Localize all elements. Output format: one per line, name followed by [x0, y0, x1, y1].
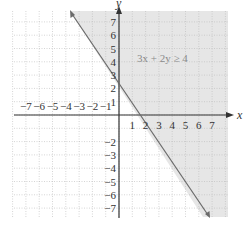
x-tick-label: −7	[20, 100, 32, 112]
x-tick-label: −6	[33, 100, 45, 112]
x-axis-arrow-icon	[226, 112, 234, 118]
y-tick-label: −5	[104, 176, 116, 188]
x-tick-label: 4	[169, 119, 175, 131]
y-tick-label: 1	[111, 96, 117, 108]
y-tick-label: 3	[111, 69, 117, 81]
x-tick-label: 1	[130, 119, 136, 131]
x-tick-label: 7	[209, 119, 215, 131]
inequality-graph: x y −7−6−5−4−3−2−11234567 7654321−2−3−4−…	[0, 0, 249, 229]
y-tick-label: −6	[104, 189, 116, 201]
y-tick-label: 4	[111, 56, 117, 68]
inequality-annotation: 3x + 2y ≥ 4	[137, 52, 188, 64]
x-tick-label: 2	[143, 119, 149, 131]
y-tick-label: −7	[104, 202, 116, 214]
x-tick-label: −4	[60, 100, 72, 112]
y-tick-label: −4	[104, 162, 116, 174]
x-axis-label: x	[236, 108, 243, 122]
y-tick-label: 5	[111, 43, 117, 55]
y-tick-label: 7	[111, 16, 117, 28]
x-tick-label: 5	[183, 119, 189, 131]
x-tick-label: −2	[87, 100, 99, 112]
x-tick-label: 6	[196, 119, 202, 131]
x-tick-label: −3	[73, 100, 85, 112]
y-tick-label: −2	[104, 136, 116, 148]
y-tick-label: 2	[111, 82, 117, 94]
y-tick-label: −3	[104, 149, 116, 161]
shaded-region	[70, 11, 228, 217]
x-tick-label: 3	[156, 119, 162, 131]
x-tick-label: −5	[47, 100, 59, 112]
y-tick-label: 6	[111, 29, 117, 41]
y-axis-label: y	[115, 0, 122, 10]
